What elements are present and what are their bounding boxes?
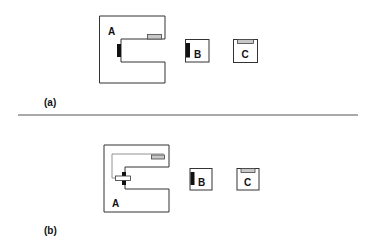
panel-b: A B C (b) xyxy=(44,145,259,236)
panel-a-label-a: A xyxy=(108,26,115,37)
diagram-canvas: A B C (a) A B C (b) xyxy=(0,0,369,246)
panel-a-shape-c-grey-bar xyxy=(238,40,254,44)
panel-a-shape-b-black-bar xyxy=(186,43,190,58)
panel-a-shape-a-black-bar xyxy=(117,44,121,57)
panel-a-caption: (a) xyxy=(44,97,56,108)
panel-b-label-b: B xyxy=(198,177,205,188)
panel-a-label-b: B xyxy=(194,49,201,60)
panel-b-shape-b-black-bar xyxy=(191,172,195,185)
panel-b-crossbar xyxy=(116,176,131,181)
panel-b-shape-a-grey-bar xyxy=(152,155,165,159)
panel-b-shape-c-grey-bar xyxy=(241,169,255,173)
panel-b-label-a: A xyxy=(112,198,119,209)
panel-b-label-c: C xyxy=(244,177,251,188)
panel-a-shape-a-grey-bar xyxy=(148,35,162,40)
panel-b-caption: (b) xyxy=(44,225,57,236)
panel-a: A B C (a) xyxy=(44,16,258,108)
panel-a-label-c: C xyxy=(242,49,249,60)
